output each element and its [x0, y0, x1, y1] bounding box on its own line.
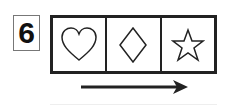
cell-heart — [53, 18, 105, 71]
heart-icon — [60, 26, 98, 64]
arrow-right-icon — [81, 80, 189, 94]
cell-star — [160, 18, 214, 71]
cell-diamond — [105, 18, 159, 71]
diamond-icon — [118, 26, 148, 64]
divider — [50, 104, 217, 105]
item-number: 6 — [13, 15, 40, 51]
shape-sequence — [50, 15, 217, 74]
star-icon — [171, 28, 205, 62]
